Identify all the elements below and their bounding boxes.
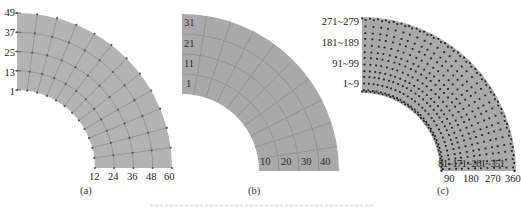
panel-c-bottom-label: 90 [444,173,455,184]
panel-c-left-label: 91~99 [300,58,359,69]
illegible-bleed-through-text [150,204,375,207]
panel-c-left-label: 181~189 [300,37,359,48]
panel-c-left-label: 1~9 [300,78,359,89]
panel-c-bottom-label: 360 [505,173,521,184]
panel-c-bottom-inside-label: 81~171~261~351 [438,158,504,169]
panel-c-bottom-label: 270 [485,173,501,184]
panel-c-bottom-label: 180 [463,173,479,184]
panel-c-caption: (c) [437,185,449,196]
panel-c-left-label: 271~279 [300,16,359,27]
panel-c-gauss-points [0,0,521,210]
figure: 49 37 25 13 1 12 24 36 48 60 (a) 31 21 1… [0,0,521,210]
